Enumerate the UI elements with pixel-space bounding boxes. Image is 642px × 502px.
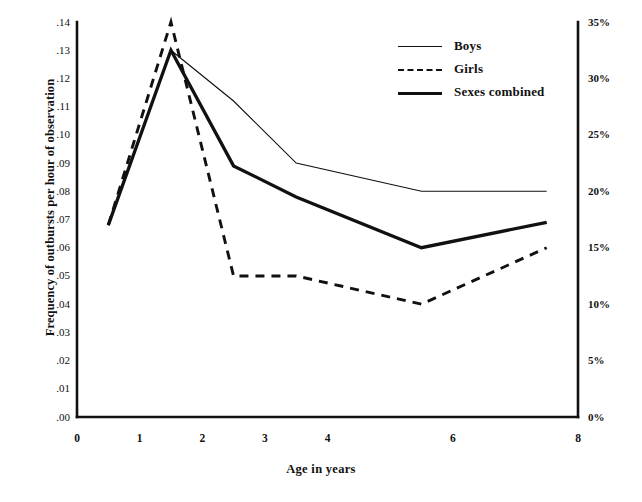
dashed-line-icon <box>398 62 442 76</box>
thick-solid-line-icon <box>398 85 442 99</box>
legend-item-boys: Boys <box>398 34 588 57</box>
legend-item-sexes-combined: Sexes combined <box>398 80 588 103</box>
chart-legend: Boys Girls Sexes combined <box>398 34 588 103</box>
thin-solid-line-icon <box>398 39 442 53</box>
legend-label-girls: Girls <box>454 61 483 77</box>
legend-item-girls: Girls <box>398 57 588 80</box>
line-chart: Frequency of outbursts per hour of obser… <box>0 0 642 502</box>
legend-label-sexes-combined: Sexes combined <box>454 84 545 100</box>
legend-label-boys: Boys <box>454 38 482 54</box>
